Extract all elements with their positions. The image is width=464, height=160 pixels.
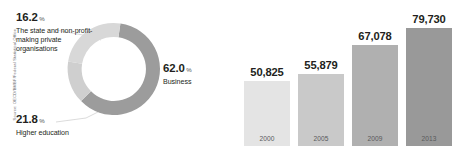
bar-year-2005: 2005 [298, 135, 344, 142]
infographic-root: Source: OECD/BMBF/Federal Statistical Of… [0, 0, 464, 160]
bar-year-2000: 2000 [244, 135, 290, 142]
callout-state-nonprofit: 16.2% The state and non-profit-making pr… [16, 8, 100, 55]
callout-value-line: 62.0% [163, 59, 229, 75]
state-nonprofit-label: The state and non-profit-making private … [16, 27, 100, 55]
bar-value-2005: 55,879 [304, 59, 337, 71]
donut-chart-panel: 16.2% The state and non-profit-making pr… [0, 0, 232, 160]
bar-chart-panel: 50,825 2000 55,879 2005 67,078 2009 79,7… [232, 0, 464, 160]
callout-value-line: 21.8% [16, 110, 112, 126]
higher-education-label: Higher education [16, 129, 112, 138]
bar-value-2009: 67,078 [358, 30, 391, 42]
business-value: 62.0 [163, 62, 185, 74]
higher-education-value: 21.8 [16, 113, 38, 125]
bar-year-2009: 2009 [352, 135, 398, 142]
bar-group-2013: 79,730 2013 [406, 28, 452, 146]
bar-rect-2005: 2005 [298, 74, 344, 146]
callout-value-line: 16.2% [16, 8, 100, 24]
state-nonprofit-value: 16.2 [16, 11, 38, 23]
bar-year-2013: 2013 [406, 135, 452, 142]
business-label: Business [163, 78, 229, 87]
bar-value-2000: 50,825 [250, 66, 283, 78]
bar-value-2013: 79,730 [412, 13, 445, 25]
business-percent-symbol: % [186, 66, 191, 73]
bar-group-2000: 50,825 2000 [244, 81, 290, 146]
bar-group-2009: 67,078 2009 [352, 45, 398, 146]
bar-rect-2013: 2013 [406, 28, 452, 146]
callout-business: 62.0% Business [163, 59, 229, 87]
bar-rect-2009: 2009 [352, 45, 398, 146]
state-nonprofit-percent-symbol: % [39, 15, 44, 22]
bar-rect-2000: 2000 [244, 81, 290, 146]
bar-group-2005: 55,879 2005 [298, 74, 344, 146]
higher-education-percent-symbol: % [39, 117, 44, 124]
callout-higher-education: 21.8% Higher education [16, 110, 112, 138]
